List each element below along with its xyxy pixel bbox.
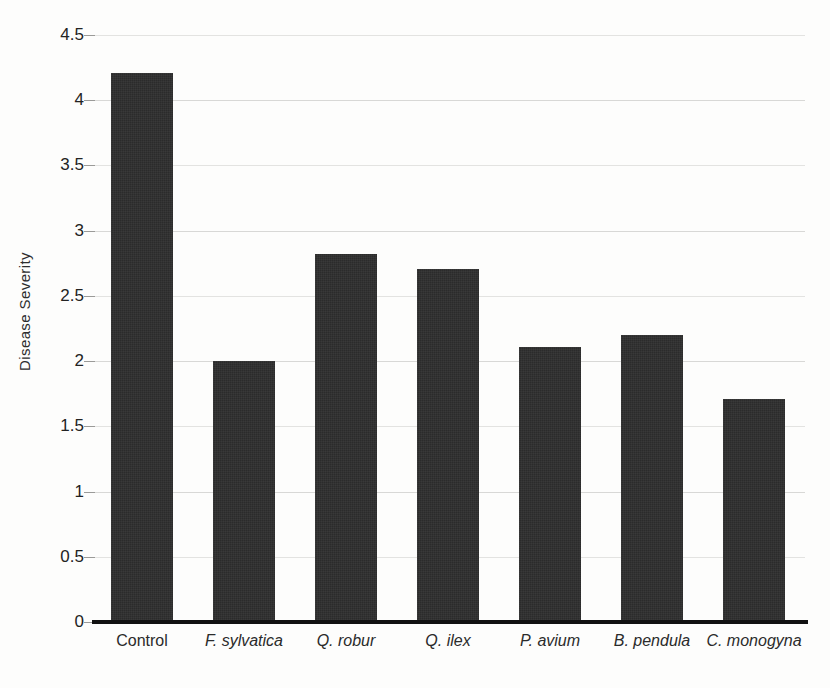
y-axis-tick-label: 3	[24, 221, 84, 241]
plot-area	[95, 35, 805, 622]
y-axis-tick-label: 1.5	[24, 416, 84, 436]
gridline	[95, 165, 805, 166]
y-axis-tick	[84, 35, 95, 36]
bar	[621, 335, 683, 622]
y-axis-tick	[84, 361, 95, 362]
y-axis-tick	[84, 165, 95, 166]
y-axis-tick	[84, 100, 95, 101]
y-axis-tick-label: 3.5	[24, 155, 84, 175]
x-axis-tick-label: Q. robur	[317, 632, 376, 650]
y-axis-tick-label: 2.5	[24, 286, 84, 306]
bar	[519, 347, 581, 622]
y-axis-tick	[84, 231, 95, 232]
y-axis-tick	[84, 296, 95, 297]
y-axis-tick-label: 4.5	[24, 25, 84, 45]
y-axis-tick-label: 0	[24, 612, 84, 632]
y-axis-tick-label: 2	[24, 351, 84, 371]
x-axis-tick-label: B. pendula	[614, 632, 691, 650]
y-axis-tick	[84, 557, 95, 558]
x-axis-tick-label: F. sylvatica	[205, 632, 283, 650]
bar	[315, 254, 377, 622]
gridline	[95, 100, 805, 101]
bar-chart-figure: Disease Severity 00.511.522.533.544.5 Co…	[0, 0, 830, 688]
y-axis-tick-label: 0.5	[24, 547, 84, 567]
y-axis-tick	[84, 426, 95, 427]
x-axis-tick-label: Control	[116, 632, 168, 650]
gridline	[95, 35, 805, 36]
bar	[111, 73, 173, 622]
bar	[213, 361, 275, 622]
x-axis-tick-label: P. avium	[520, 632, 580, 650]
bar	[417, 269, 479, 623]
y-axis-tick-label: 1	[24, 482, 84, 502]
y-axis-tick	[84, 492, 95, 493]
gridline	[95, 231, 805, 232]
y-axis-tick-label: 4	[24, 90, 84, 110]
x-axis-tick-label: C. monogyna	[706, 632, 801, 650]
x-axis-line	[92, 620, 808, 624]
x-axis-tick-label: Q. ilex	[425, 632, 470, 650]
bar	[723, 399, 785, 622]
